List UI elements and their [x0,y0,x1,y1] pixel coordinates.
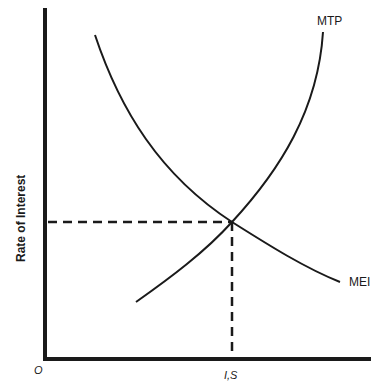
mei-label: MEI [349,275,370,289]
x-tick-label: I,S [224,369,237,381]
mei-curve [95,35,340,282]
origin-label: O [34,364,43,376]
mtp-curve [136,32,323,302]
mtp-label: MTP [317,14,342,28]
diagram-canvas [0,0,379,386]
y-axis-label: Rate of Interest [14,175,28,262]
